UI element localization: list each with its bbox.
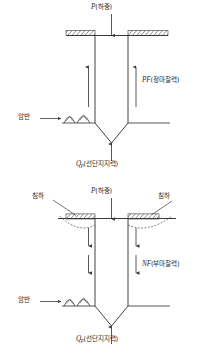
label-bedrock-top: 암반 [18, 114, 30, 121]
settlement-hatch-left [66, 214, 95, 219]
label-load-top: P(하중) [91, 4, 112, 11]
label-settlement-right: 침하 [158, 193, 170, 200]
diagram-negative-friction [40, 198, 176, 344]
label-positive-friction: PF(정마찰력) [142, 77, 179, 84]
label-settlement-left: 침하 [32, 193, 44, 200]
label-negative-friction: NF(부마찰력) [142, 261, 180, 268]
settlement-leader-right [152, 201, 172, 215]
label-bedrock-bottom: 암반 [18, 297, 30, 304]
label-end-bearing-top: Qp(선단지지력) [76, 161, 118, 169]
label-end-bearing-bottom: Qp(선단지지력) [76, 336, 118, 344]
pile-shaft-top [95, 36, 128, 144]
bedrock-symbol-top [64, 115, 90, 123]
settlement-hatch-right [128, 214, 159, 219]
settlement-leader-left [53, 200, 76, 216]
ground-hatch-right-top [128, 31, 168, 36]
pile-friction-diagram-figure: P(하중) PF(정마찰력) 암반 Qp(선단지지력) P(하중) 침하 침하 … [0, 0, 208, 349]
label-load-bottom: P(하중) [91, 188, 112, 195]
diagram-canvas [0, 0, 208, 349]
diagram-positive-friction [40, 14, 170, 161]
bedrock-symbol-bottom [64, 298, 90, 306]
ground-hatch-left-top [66, 31, 95, 36]
pile-shaft-bottom [95, 219, 128, 327]
